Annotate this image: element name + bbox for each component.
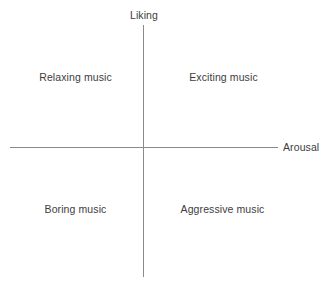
quadrant-diagram: Liking Arousal Relaxing music Exciting m…: [0, 0, 321, 284]
quadrant-label-relaxing-music: Relaxing music: [0, 71, 151, 83]
quadrant-label-exciting-music: Exciting music: [143, 71, 304, 83]
y-axis-label-liking: Liking: [0, 9, 288, 21]
vertical-axis-line: [143, 25, 144, 277]
x-axis-label-arousal: Arousal: [283, 141, 319, 153]
quadrant-label-boring-music: Boring music: [0, 203, 151, 215]
quadrant-label-aggressive-music: Aggressive music: [143, 203, 302, 215]
horizontal-axis-line: [10, 147, 278, 148]
